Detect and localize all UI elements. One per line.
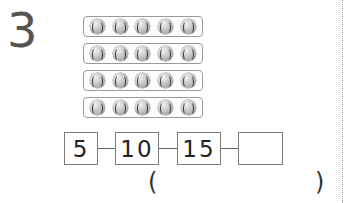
baseball-icon [181,100,196,115]
baseball-icon [113,46,128,61]
baseball-icon [90,100,105,115]
baseball-icon [181,73,196,88]
ball-row-2 [83,43,203,64]
baseball-icon [135,73,150,88]
page-divider [342,0,343,203]
answer-blank[interactable] [160,168,310,196]
sequence-box-4-blank[interactable] [238,132,283,165]
baseball-icon [158,73,173,88]
baseball-icon [181,19,196,34]
baseball-icon [90,46,105,61]
baseball-icon [181,46,196,61]
sequence-box-1: 5 [64,132,98,165]
connector-line [98,148,115,149]
answer-open-paren: ( [148,168,157,196]
sequence-box-2: 10 [115,132,159,165]
baseball-icon [90,73,105,88]
baseball-icon [113,19,128,34]
question-number: 3 [7,2,38,58]
baseball-icon [113,100,128,115]
ball-row-3 [83,70,203,91]
connector-line [159,148,177,149]
connector-line [221,148,238,149]
ball-row-1 [83,16,203,37]
baseball-icon [158,100,173,115]
ball-row-4 [83,97,203,118]
answer-close-paren: ) [315,168,324,196]
sequence-box-3: 15 [177,132,221,165]
baseball-icon [135,100,150,115]
baseball-icon [135,19,150,34]
baseball-icon [158,46,173,61]
baseball-icon [158,19,173,34]
baseball-icon [113,73,128,88]
baseball-icon [90,19,105,34]
baseball-icon [135,46,150,61]
